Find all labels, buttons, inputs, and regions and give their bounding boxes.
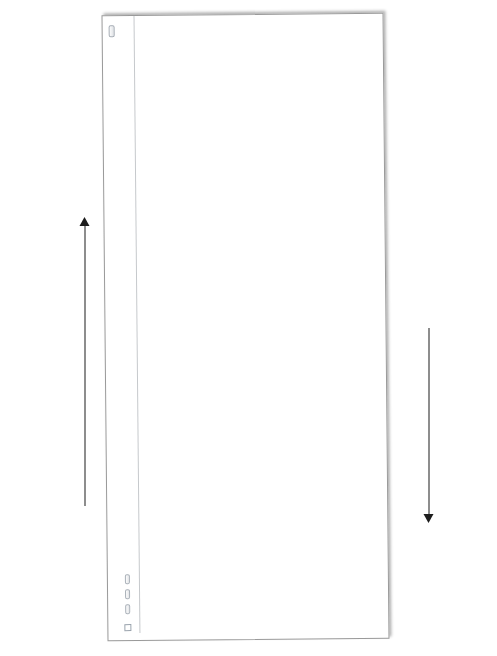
- search-history-panel: [101, 13, 389, 642]
- annotation-and-combine: [437, 312, 470, 632]
- column-header-checkbox: [135, 613, 140, 633]
- leader-line-limiters: [84, 224, 85, 506]
- column-header-actions: [129, 13, 135, 113]
- column-header-search-options: [130, 113, 136, 277]
- leader-arrow-title: [423, 514, 433, 523]
- refresh-search-results-button[interactable]: [108, 25, 114, 37]
- rotated-page-stage: [0, 0, 497, 656]
- search-with-or-button[interactable]: [124, 589, 129, 599]
- delete-searches-button[interactable]: [124, 574, 129, 584]
- leader-line-title: [428, 328, 429, 514]
- search-with-and-button[interactable]: [125, 604, 130, 614]
- column-header-search-id: [134, 583, 139, 613]
- select-all-checkbox[interactable]: [124, 624, 131, 631]
- refresh-search-results-wrap: [108, 25, 114, 37]
- leader-arrow-limiters: [79, 217, 89, 226]
